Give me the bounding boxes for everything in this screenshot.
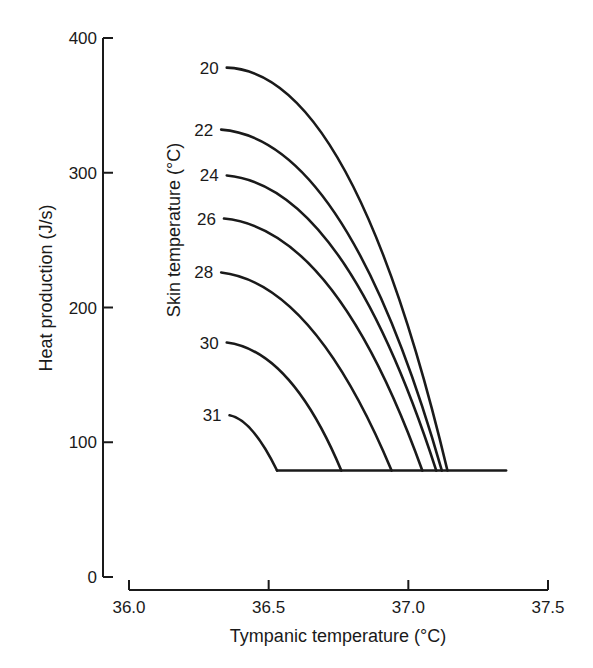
- curve-line: [227, 343, 342, 471]
- x-ticks: 36.036.537.037.5: [112, 580, 564, 617]
- curve-skin-26: 26: [197, 210, 422, 471]
- curve-skin-31: 31: [203, 406, 277, 470]
- curve-label: 24: [200, 166, 219, 185]
- x-tick-label: 36.5: [252, 598, 285, 617]
- y-tick-label: 100: [69, 433, 97, 452]
- curve-skin-30: 30: [200, 334, 341, 471]
- y-ticks: 0100200300400: [69, 29, 113, 587]
- x-axis: 36.036.537.037.5 Tympanic temperature (°…: [112, 580, 564, 646]
- y-axis: 0100200300400 Heat production (J/s): [36, 29, 113, 587]
- y-tick-label: 300: [69, 164, 97, 183]
- curve-label: 28: [194, 263, 213, 282]
- curves: 20222426283031: [194, 59, 447, 471]
- curve-label: 22: [194, 121, 213, 140]
- x-axis-title: Tympanic temperature (°C): [230, 626, 446, 646]
- curve-label: 30: [200, 334, 219, 353]
- x-tick-label: 37.0: [392, 598, 425, 617]
- curve-label: 20: [200, 59, 219, 78]
- x-tick-label: 36.0: [112, 598, 145, 617]
- curve-skin-22: 22: [194, 121, 442, 471]
- y-axis-title: Heat production (J/s): [36, 204, 56, 371]
- chart: 0100200300400 Heat production (J/s) 36.0…: [0, 0, 593, 668]
- y-tick-label: 0: [88, 568, 97, 587]
- curve-label: 26: [197, 210, 216, 229]
- curve-line: [230, 415, 277, 470]
- curve-skin-20: 20: [200, 59, 448, 471]
- y-tick-label: 400: [69, 29, 97, 48]
- curve-label: 31: [203, 406, 222, 425]
- x-tick-label: 37.5: [531, 598, 564, 617]
- series-title: Skin temperature (°C): [164, 143, 184, 317]
- y-tick-label: 200: [69, 299, 97, 318]
